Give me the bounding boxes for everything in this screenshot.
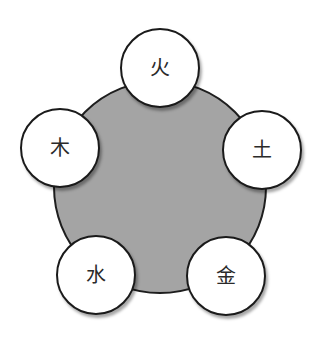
node-metal-label: 金 bbox=[216, 266, 236, 286]
node-earth[interactable]: 土 bbox=[222, 110, 302, 190]
node-fire[interactable]: 火 bbox=[120, 28, 200, 108]
node-wood[interactable]: 木 bbox=[20, 108, 100, 188]
node-fire-label: 火 bbox=[150, 58, 170, 78]
node-metal[interactable]: 金 bbox=[186, 236, 266, 316]
five-elements-diagram: 火 土 金 水 木 bbox=[0, 0, 328, 342]
node-water-label: 水 bbox=[86, 265, 106, 285]
node-wood-label: 木 bbox=[50, 138, 70, 158]
node-earth-label: 土 bbox=[252, 140, 272, 160]
node-water[interactable]: 水 bbox=[56, 235, 136, 315]
